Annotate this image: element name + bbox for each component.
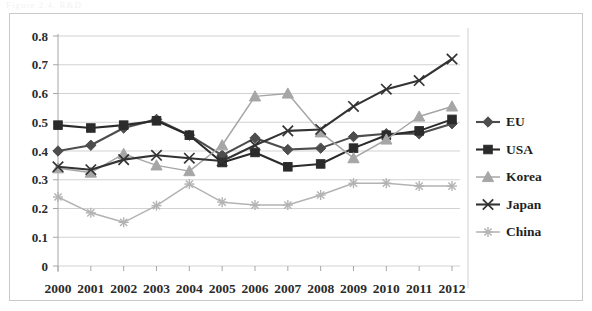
legend-label-usa: USA [506, 142, 533, 157]
legend-item-usa[interactable]: USA [476, 142, 533, 157]
data-point-marker-asterisk [381, 178, 391, 188]
data-point-marker-diamond [86, 140, 96, 150]
scan-top-artifact-text: Figure 2.4. R&D [6, 0, 246, 11]
data-point-marker-asterisk [447, 181, 457, 191]
data-point-marker-asterisk [53, 192, 63, 202]
data-point-marker-square [185, 131, 194, 140]
data-point-marker-square [251, 148, 260, 157]
data-point-marker-asterisk [250, 200, 260, 210]
figure-root: Figure 2.4. R&D 0.80.70.60.50.40.30.20.1… [0, 0, 592, 311]
data-point-marker-asterisk [217, 197, 227, 207]
data-point-marker-triangle [217, 140, 228, 150]
data-point-marker-triangle [282, 88, 293, 98]
x-tick-label: 2001 [77, 281, 104, 296]
y-tick-label: 0.5 [32, 115, 49, 130]
x-tick-label: 2008 [307, 281, 334, 296]
x-tick-label: 2005 [209, 281, 236, 296]
data-point-marker-square [119, 121, 128, 130]
data-point-marker-asterisk [184, 179, 194, 189]
data-point-marker-diamond [348, 131, 358, 141]
x-tick-label: 2011 [406, 281, 433, 296]
data-point-marker-square [349, 144, 358, 153]
data-point-marker-cross [447, 54, 457, 64]
x-axis-tick-labels: 2000200120022003200420052006200720082009… [45, 281, 466, 296]
data-point-marker-asterisk [349, 178, 359, 188]
x-tick-label: 2006 [242, 281, 269, 296]
x-tick-label: 2010 [373, 281, 400, 296]
legend-item-japan[interactable]: Japan [476, 197, 542, 212]
y-axis-tick-labels: 0.80.70.60.50.40.30.20.10 [32, 29, 49, 274]
data-point-marker-square [284, 163, 293, 172]
chart-legend: EUUSAKoreaJapanChina [468, 28, 542, 288]
data-point-marker-asterisk [483, 227, 493, 237]
y-tick-label: 0 [42, 259, 49, 274]
y-tick-label: 0.2 [32, 201, 48, 216]
data-point-marker-cross [348, 101, 358, 111]
data-point-marker-triangle [118, 148, 129, 158]
chart-svg: 0.80.70.60.50.40.30.20.10 20002001200220… [10, 14, 584, 302]
legend-label-korea: Korea [506, 169, 542, 184]
data-point-marker-diamond [53, 146, 63, 156]
data-point-marker-square [415, 127, 424, 136]
x-tick-label: 2002 [110, 281, 137, 296]
legend-item-korea[interactable]: Korea [476, 169, 542, 184]
y-tick-label: 0.3 [32, 172, 49, 187]
data-point-marker-triangle [151, 160, 162, 170]
data-point-marker-triangle [348, 153, 359, 163]
x-tick-label: 2000 [45, 281, 72, 296]
data-point-marker-triangle [446, 101, 457, 111]
data-point-marker-diamond [483, 117, 493, 127]
data-point-marker-asterisk [86, 208, 96, 218]
y-tick-label: 0.1 [32, 230, 48, 245]
data-point-marker-square [448, 115, 457, 124]
x-tick-label: 2012 [439, 281, 466, 296]
data-point-marker-asterisk [283, 200, 293, 210]
data-point-marker-asterisk [316, 190, 326, 200]
y-tick-label: 0.4 [32, 144, 49, 159]
y-tick-label: 0.6 [32, 86, 49, 101]
legend-label-japan: Japan [506, 197, 542, 212]
data-point-marker-diamond [315, 143, 325, 153]
y-tick-label: 0.7 [32, 57, 49, 72]
data-point-marker-asterisk [119, 217, 129, 227]
series-china [53, 178, 457, 227]
data-point-marker-square [54, 121, 63, 130]
legend-label-eu: EU [506, 114, 525, 129]
chart-frame: 0.80.70.60.50.40.30.20.10 20002001200220… [9, 13, 583, 301]
data-point-marker-asterisk [152, 201, 162, 211]
line-chart: 0.80.70.60.50.40.30.20.10 20002001200220… [10, 14, 584, 302]
legend-label-china: China [506, 224, 542, 239]
data-point-marker-square [316, 160, 325, 169]
data-point-marker-square [87, 124, 96, 133]
legend-item-eu[interactable]: EU [476, 114, 525, 129]
data-point-marker-square [484, 145, 493, 154]
x-tick-label: 2007 [274, 281, 301, 296]
legend-item-china[interactable]: China [476, 224, 542, 239]
data-point-marker-diamond [283, 144, 293, 154]
y-tick-label: 0.8 [32, 29, 49, 44]
data-point-marker-asterisk [414, 181, 424, 191]
data-point-marker-square [152, 117, 161, 126]
x-tick-label: 2004 [176, 281, 203, 296]
x-tick-label: 2003 [143, 281, 170, 296]
x-tick-label: 2009 [340, 281, 367, 296]
data-series-group [52, 54, 457, 228]
